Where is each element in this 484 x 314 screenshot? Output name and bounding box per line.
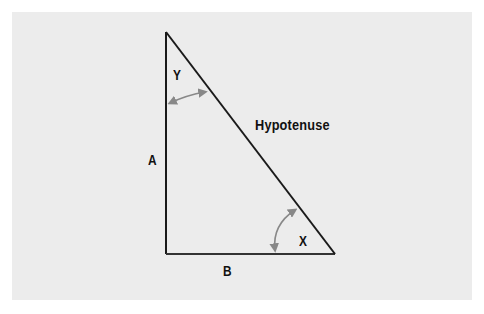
hypotenuse-line <box>166 32 335 254</box>
side-b-label: B <box>223 264 232 278</box>
angle-x-label: X <box>299 234 307 248</box>
diagram-canvas: Y X A B Hypotenuse <box>0 0 484 314</box>
hypotenuse-label: Hypotenuse <box>255 117 330 132</box>
angle-y-label: Y <box>173 68 181 82</box>
side-a-label: A <box>148 153 157 167</box>
angle-y-arrow-icon <box>170 92 205 103</box>
angle-x-arrow-icon <box>275 210 295 250</box>
right-triangle-diagram <box>0 0 484 314</box>
